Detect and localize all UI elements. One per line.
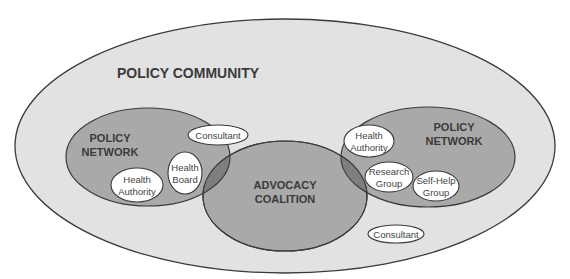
actor-label-line2: Board	[172, 174, 197, 185]
actor-self-help-group: Self-Help Group	[413, 171, 459, 201]
actor-health-authority-right: Health Authority	[344, 125, 394, 157]
advocacy-coalition-label-line1: ADVOCACY	[254, 179, 318, 191]
actor-consultant-left: Consultant	[188, 125, 248, 145]
actor-label-line2: Authority	[350, 142, 388, 153]
actor-health-authority-left: Health Authority	[111, 168, 163, 202]
actor-health-board: Health Board	[168, 152, 202, 194]
actor-label: Consultant	[195, 130, 241, 141]
actor-label-line1: Health	[171, 162, 198, 173]
actor-label-line2: Group	[376, 178, 402, 189]
policy-community-label: POLICY COMMUNITY	[117, 65, 260, 81]
left-network-label-line2: NETWORK	[82, 146, 139, 158]
actor-label-line2: Group	[423, 187, 449, 198]
actor-research-group: Research Group	[365, 162, 413, 192]
actor-label-line1: Research	[369, 166, 410, 177]
actor-label-line1: Health	[123, 174, 150, 185]
actor-consultant-outside: Consultant	[368, 225, 424, 243]
policy-community-diagram: POLICY COMMUNITY POLICY NETWORK Consulta…	[0, 0, 570, 279]
left-network-label-line1: POLICY	[90, 132, 132, 144]
actor-label-line2: Authority	[118, 186, 156, 197]
actor-label-line1: Self-Help	[416, 175, 455, 186]
actor-label-line1: Health	[355, 130, 382, 141]
right-network-label-line2: NETWORK	[426, 135, 483, 147]
actor-label: Consultant	[373, 229, 419, 240]
advocacy-coalition-label-line2: COALITION	[255, 193, 316, 205]
right-network-label-line1: POLICY	[434, 121, 476, 133]
